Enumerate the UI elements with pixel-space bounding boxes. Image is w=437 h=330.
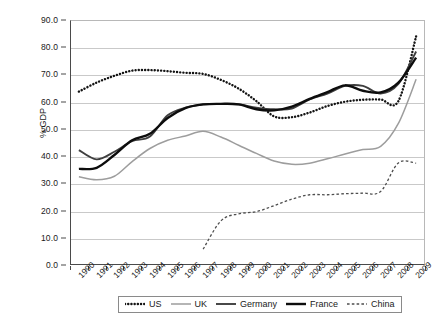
legend-entry-china[interactable]: China [347, 299, 395, 309]
legend-label: UK [195, 299, 208, 309]
x-tick-mark [70, 266, 71, 270]
legend-label: US [149, 299, 162, 309]
legend-label: China [371, 299, 395, 309]
legend-swatch-germany [216, 300, 236, 308]
legend-entry-france[interactable]: France [286, 299, 338, 309]
legend-swatch-us [125, 300, 145, 308]
legend-entry-us[interactable]: US [125, 299, 162, 309]
legend: USUKGermanyFranceChina [118, 296, 402, 313]
legend-entry-uk[interactable]: UK [171, 299, 208, 309]
series-line-china [203, 161, 416, 249]
chart-container: 90.080.070.060.050.040.030.020.010.00.0 … [0, 0, 437, 330]
legend-swatch-china [347, 300, 367, 308]
legend-entry-germany[interactable]: Germany [216, 299, 277, 309]
legend-swatch-france [286, 300, 306, 308]
legend-label: Germany [240, 299, 277, 309]
series-line-france [79, 58, 416, 170]
legend-label: France [310, 299, 338, 309]
series-line-uk [79, 79, 416, 179]
legend-swatch-uk [171, 300, 191, 308]
